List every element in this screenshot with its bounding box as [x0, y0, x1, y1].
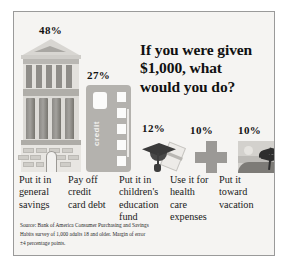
bank-arched-doorway [46, 151, 57, 172]
credit-card-chip [93, 92, 107, 109]
bank-brick [23, 162, 34, 167]
bank-brick [60, 162, 71, 167]
credit-card-stripe [117, 140, 126, 150]
bank-brick [23, 148, 34, 153]
credit-card-icon: credit [86, 85, 131, 172]
graduation-cap-icon [138, 138, 186, 174]
bank-column [39, 98, 48, 139]
bank-lower-colonnade [23, 96, 79, 141]
source-note: Source: Bank of America Consumer Purchas… [20, 221, 240, 248]
source-line-2: Habits survey of 1,000 adults 18 and old… [20, 230, 240, 239]
palm-tree-vacation-icon [238, 141, 275, 173]
medical-cross-icon [195, 141, 227, 173]
bank-column [26, 98, 35, 139]
bank-brick [68, 155, 79, 160]
headline-line-3: would you do? [140, 78, 268, 96]
caption-health-care: Use it for health care expenses [170, 174, 218, 224]
headline-line-1: If you were given [140, 41, 268, 59]
bank-brick [36, 162, 44, 167]
credit-card-stripe [117, 92, 126, 102]
bank-column [52, 98, 61, 139]
bank-upper-column [66, 65, 72, 88]
bank-mid-band [23, 89, 79, 96]
sun-icon [244, 146, 253, 155]
caption-vacation: Put it toward vacation [219, 174, 269, 224]
source-line-3: ±4 percentage points. [20, 239, 240, 248]
percent-label-vacation: 10% [238, 124, 261, 136]
percent-label-health: 10% [190, 124, 213, 136]
credit-card-edge-line [127, 109, 129, 157]
bank-brick [18, 155, 29, 160]
caption-row: Put it in general savings Pay off credit… [19, 174, 275, 224]
bank-brick [36, 148, 47, 153]
bank-upper-column [36, 65, 42, 88]
headline-line-2: $1,000, what [140, 59, 268, 77]
credit-card-stripe [117, 124, 126, 134]
percent-label-education: 12% [142, 122, 165, 134]
bank-building-icon [20, 39, 82, 172]
cross-horizontal-bar [195, 152, 227, 163]
infographic-panel: If you were given $1,000, what would you… [13, 11, 275, 256]
caption-credit-card-debt: Pay off credit card debt [68, 174, 118, 224]
bank-upper-column [56, 65, 62, 88]
bank-upper-colonnade [23, 64, 79, 89]
credit-card-stripe [117, 108, 126, 118]
percent-label-credit: 27% [87, 69, 110, 81]
page-title: If you were given $1,000, what would you… [140, 41, 268, 96]
caption-savings: Put it in general savings [19, 174, 67, 224]
bank-upper-column [46, 65, 52, 88]
bank-column [65, 98, 74, 139]
caption-education-fund: Put it in children's education fund [119, 174, 169, 224]
tassel [154, 164, 161, 172]
credit-card-stripe [117, 156, 126, 166]
percent-label-savings: 48% [39, 24, 62, 36]
bank-upper-column [26, 65, 32, 88]
bank-brick [62, 148, 73, 153]
bank-brick [30, 155, 41, 160]
credit-card-label: credit [92, 117, 101, 151]
source-line-1: Source: Bank of America Consumer Purchas… [20, 221, 240, 230]
